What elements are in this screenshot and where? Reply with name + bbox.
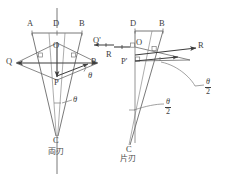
right-diagram [114,29,204,146]
left-theta-leader-lower [62,100,72,103]
right-label-R-left: R [106,50,112,59]
left-label-theta-upper: θ [88,71,92,80]
right-label-D: D [130,19,136,28]
left-label-C: C [53,136,59,145]
left-label-R: R [91,57,97,66]
left-label-theta-lower: θ [73,95,77,104]
left-caption-two-edged: 両刃 [48,148,64,156]
right-angle-mark-O [131,43,135,47]
left-right-angle-mark-left [39,53,43,57]
left-label-O: O [53,41,59,50]
right-label-C: C [126,145,132,154]
left-diagram [16,8,114,174]
right-half-theta-arc-lower [134,104,164,110]
right-label-O: O [136,38,142,47]
left-label-B: B [79,19,85,28]
left-label-Q-prime: Q' [93,36,101,45]
right-half-theta-lower: θ 2 [165,98,171,116]
right-caption-single-edged: 片刃 [120,155,136,163]
left-right-angle-mark-right [72,53,76,57]
right-label-B: B [159,19,165,28]
left-parallelogram-edge-2 [16,63,57,80]
left-label-P: P [54,78,59,87]
right-label-P-prime: P' [121,57,127,66]
right-half-theta-lower-denominator: 2 [165,108,171,116]
right-half-theta-upper-denominator: 2 [205,88,211,96]
left-label-A: A [27,19,33,28]
right-half-theta-upper: θ 2 [205,78,211,96]
right-half-theta-upper-numerator: θ [205,78,211,86]
left-label-Q: Q [6,57,12,66]
right-half-theta-lower-numerator: θ [165,98,171,106]
right-label-R: R [198,41,204,50]
left-label-D: D [53,19,59,28]
right-angle-mark-face [152,47,156,51]
blade-force-diagram [0,0,228,181]
right-half-theta-connector-upper [195,85,204,86]
right-half-theta-arc-upper [161,62,195,86]
